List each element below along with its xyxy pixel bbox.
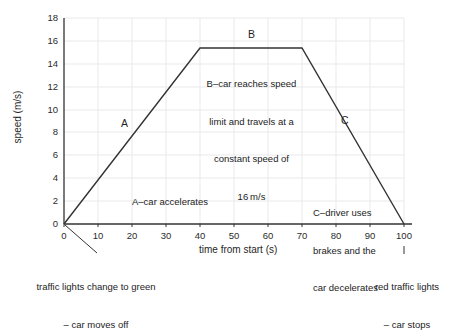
- y-tick-label-14: 14: [36, 58, 58, 69]
- note-segment-c-line1: C–driver uses: [313, 207, 393, 220]
- y-tick-label-16: 16: [36, 35, 58, 46]
- note-segment-a-line1: A–car accelerates: [132, 196, 208, 207]
- segment-letter-a: A: [121, 117, 128, 129]
- note-segment-b: B–car reaches speed limit and travels at…: [203, 53, 300, 228]
- segment-letter-b: B: [248, 28, 255, 40]
- y-tick-label-0: 0: [36, 218, 58, 229]
- x-tick-label-60: 60: [255, 230, 281, 241]
- callout-start: traffic lights change to green – car mov…: [6, 256, 186, 334]
- note-segment-b-line1: B–car reaches speed: [203, 78, 300, 91]
- callout-stop-line2: – car stops: [348, 319, 466, 332]
- x-tick-label-70: 70: [289, 230, 315, 241]
- callout-stop-line1: red traffic lights: [348, 281, 466, 294]
- callout-start-line1: traffic lights change to green: [6, 281, 186, 294]
- x-tick-label-50: 50: [221, 230, 247, 241]
- y-tick-label-6: 6: [36, 149, 58, 160]
- y-tick-label-2: 2: [36, 195, 58, 206]
- note-segment-b-line3: constant speed of: [203, 153, 300, 166]
- callout-start-line2: – car moves off: [6, 319, 186, 332]
- x-axis-title: time from start (s): [199, 244, 277, 256]
- y-tick-label-12: 12: [36, 81, 58, 92]
- x-tick-label-40: 40: [187, 230, 213, 241]
- y-tick-label-4: 4: [36, 172, 58, 183]
- x-tick-label-0: 0: [51, 230, 77, 241]
- y-tick-label-10: 10: [36, 104, 58, 115]
- x-tick-label-30: 30: [153, 230, 179, 241]
- x-tick-label-10: 10: [85, 230, 111, 241]
- y-tick-label-8: 8: [36, 126, 58, 137]
- y-axis-title-wrapper: speed (m/s): [7, 77, 25, 157]
- callout-stop: red traffic lights – car stops: [348, 256, 466, 334]
- y-tick-label-18: 18: [36, 12, 58, 23]
- note-segment-b-line4: 16 m/s: [203, 191, 300, 204]
- x-tick-label-100: 100: [391, 230, 417, 241]
- segment-letter-c: C: [341, 114, 349, 126]
- note-segment-b-line2: limit and travels at a: [203, 116, 300, 129]
- y-axis-title: speed (m/s): [12, 91, 23, 144]
- x-tick-label-20: 20: [119, 230, 145, 241]
